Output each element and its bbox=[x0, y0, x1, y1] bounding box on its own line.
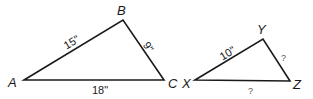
vertex-label-b: B bbox=[117, 3, 126, 18]
side-length-ab: 15" bbox=[61, 33, 81, 52]
similar-triangles-diagram: A B C 15" 9" 18" X Y Z 10" ? ? bbox=[0, 0, 313, 99]
vertex-label-z: Z bbox=[292, 77, 302, 92]
vertex-label-a: A bbox=[7, 75, 17, 90]
vertex-label-y: Y bbox=[257, 22, 267, 37]
side-length-yz: ? bbox=[281, 53, 286, 63]
side-length-xz: ? bbox=[248, 86, 253, 96]
triangle-abc bbox=[24, 20, 164, 80]
side-length-ac: 18" bbox=[92, 84, 108, 96]
triangle-xyz bbox=[195, 39, 290, 81]
side-length-bc: 9" bbox=[141, 39, 157, 54]
side-length-xy: 10" bbox=[217, 44, 237, 63]
vertex-label-x: X bbox=[181, 76, 192, 91]
vertex-label-c: C bbox=[168, 76, 178, 91]
